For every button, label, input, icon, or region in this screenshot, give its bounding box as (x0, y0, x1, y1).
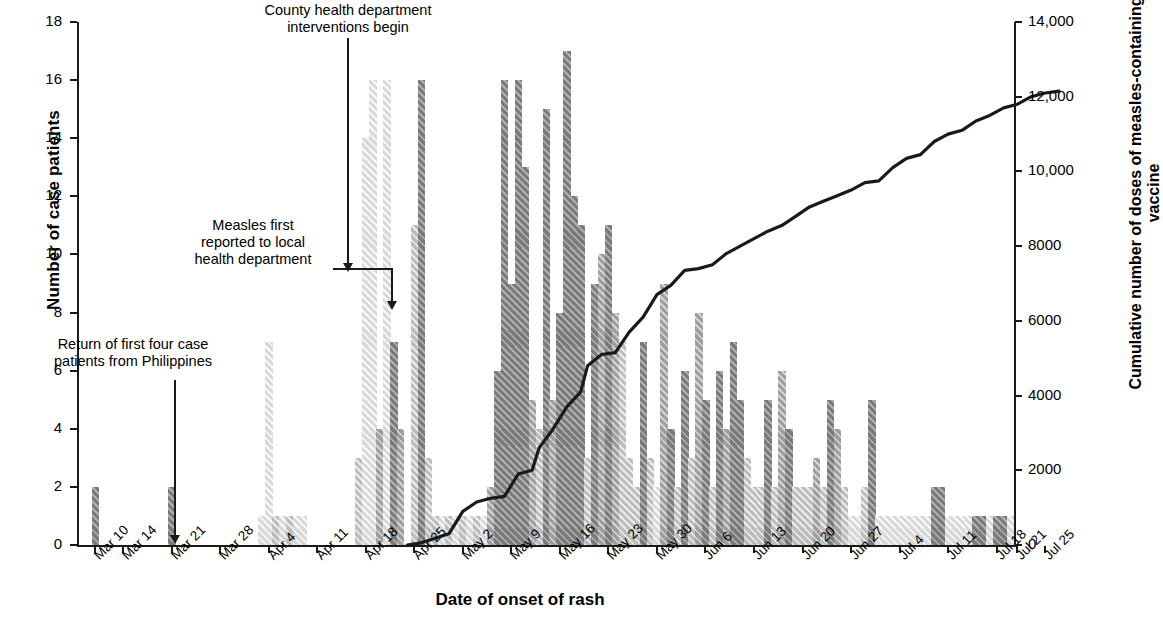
y-axis-right-tick (1015, 469, 1022, 471)
y-axis-left-tick (70, 428, 77, 430)
y-axis-right-tick-label: 14,000 (1028, 12, 1098, 29)
y-axis-left-tick (70, 544, 77, 546)
plot-area: 024681012141618 0200040006000800010,0001… (78, 22, 1014, 545)
y-axis-left-tick (70, 79, 77, 81)
cumulative-line-series (78, 22, 1014, 545)
annotation-measles-reported-hline (333, 268, 393, 270)
y-axis-right-tick-label: 2000 (1028, 460, 1098, 477)
y-axis-right-tick-label: 10,000 (1028, 161, 1098, 178)
annotation-interventions-begin-arrowhead (343, 263, 353, 272)
y-axis-right-tick (1015, 245, 1022, 247)
y-axis-right-tick (1015, 21, 1022, 23)
y-axis-left-tick-label: 14 (18, 128, 62, 145)
y-axis-left-line (77, 22, 79, 546)
y-axis-left-tick-label: 2 (18, 477, 62, 494)
y-axis-left-tick (70, 486, 77, 488)
y-axis-left-tick-label: 4 (18, 419, 62, 436)
y-axis-right-line (1014, 22, 1016, 546)
y-axis-right-tick (1015, 320, 1022, 322)
y-axis-left-tick-label: 18 (18, 12, 62, 29)
y-axis-left-tick-label: 16 (18, 70, 62, 87)
annotation-measles-reported-text: Measles first reported to local health d… (173, 217, 333, 267)
annotation-return-philippines-text: Return of first four case patients from … (18, 336, 248, 370)
annotation-return-philippines-arrowhead (170, 535, 180, 544)
y-axis-left-tick-label: 0 (18, 535, 62, 552)
y-axis-right-tick (1015, 170, 1022, 172)
annotation-measles-reported-arrowhead (387, 301, 397, 310)
y-axis-left-tick (70, 137, 77, 139)
y-axis-left-tick-label: 10 (18, 244, 62, 261)
annotation-interventions-begin-line (347, 38, 349, 266)
y-axis-right-title: Cumulative number of doses of measles-co… (1127, 0, 1163, 403)
y-axis-right-tick-label: 12,000 (1028, 87, 1098, 104)
y-axis-left-tick (70, 21, 77, 23)
cumulative-line (407, 91, 1059, 545)
x-axis-title: Date of onset of rash (330, 590, 710, 610)
y-axis-right-tick-label: 8000 (1028, 236, 1098, 253)
annotation-return-philippines-line (174, 380, 176, 538)
y-axis-left-tick-label: 12 (18, 186, 62, 203)
y-axis-left-tick (70, 312, 77, 314)
y-axis-left-tick (70, 253, 77, 255)
y-axis-left-tick-label: 8 (18, 303, 62, 320)
annotation-interventions-begin-text: County health department interventions b… (218, 2, 478, 36)
y-axis-right-tick (1015, 96, 1022, 98)
x-axis-line (77, 545, 1016, 547)
y-axis-left-tick (70, 370, 77, 372)
y-axis-left-tick (70, 195, 77, 197)
y-axis-right-tick (1015, 395, 1022, 397)
y-axis-right-tick-label: 6000 (1028, 311, 1098, 328)
y-axis-right-tick-label: 4000 (1028, 386, 1098, 403)
annotation-measles-reported-vline (391, 268, 393, 304)
